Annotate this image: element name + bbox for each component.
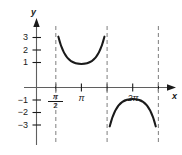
y-tick-label-3: 3 (12, 33, 28, 42)
x-tick-label-two-pi: 2π (124, 94, 142, 103)
asymptote-lines (56, 26, 159, 143)
y-tick-label-minus-2: −2 (8, 108, 28, 117)
half-pi-denominator: 2 (48, 102, 63, 110)
curve-upper-branch (58, 37, 104, 64)
y-tick-label-1: 1 (12, 58, 28, 67)
y-tick-label-2: 2 (12, 46, 28, 55)
x-axis-label: x (172, 92, 177, 101)
x-tick-label-half-pi: π 2 (48, 93, 63, 110)
x-axis-arrow (167, 84, 176, 91)
y-axis-label: y (31, 8, 36, 17)
y-tick-label-minus-1: −1 (8, 96, 28, 105)
curve-lower-branch (110, 99, 156, 126)
y-axis-arrow (33, 18, 39, 27)
x-axis (24, 84, 176, 91)
graph-figure: y x 3 2 1 −1 −2 −3 π 2 π 2π (0, 0, 182, 155)
y-tick-label-minus-3: −3 (8, 121, 28, 130)
x-tick-label-pi: π (75, 94, 88, 103)
coordinate-plane (0, 0, 182, 155)
half-pi-numerator: π (48, 93, 63, 101)
